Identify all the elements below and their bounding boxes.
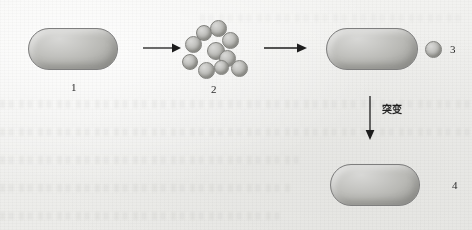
bleed-through-line <box>200 14 462 22</box>
label-item-3: 3 <box>450 44 456 55</box>
bacterium-cell-4 <box>330 164 420 206</box>
arrow-3-to-4 <box>363 96 377 142</box>
cell-3-body <box>326 28 418 70</box>
bound-particle-on-cell-3 <box>425 41 442 58</box>
particle <box>219 50 236 67</box>
particle <box>198 62 215 79</box>
bacterium-cell-3 <box>326 28 418 70</box>
bleed-through-line <box>0 156 302 164</box>
particle <box>214 60 229 75</box>
particle <box>231 60 248 77</box>
label-item-4: 4 <box>452 180 458 191</box>
particle <box>196 25 212 41</box>
particle <box>222 32 239 49</box>
cell-1-body <box>28 28 118 70</box>
particle <box>182 54 198 70</box>
cell-4-body <box>330 164 420 206</box>
label-item-1: 1 <box>71 82 77 93</box>
arrow-1-to-2 <box>143 41 183 55</box>
bleed-through-line <box>0 212 282 220</box>
bleed-through-line <box>0 128 472 136</box>
particle <box>207 42 225 60</box>
bleed-through-line <box>0 184 292 192</box>
bacterium-cell-1 <box>28 28 118 70</box>
particle <box>185 36 202 53</box>
particle <box>210 20 227 37</box>
label-item-2: 2 <box>211 84 217 95</box>
mutation-annotation: 突变 <box>382 105 402 115</box>
arrow-2-to-3 <box>264 41 310 55</box>
figure-canvas: 1 2 <box>0 0 472 230</box>
